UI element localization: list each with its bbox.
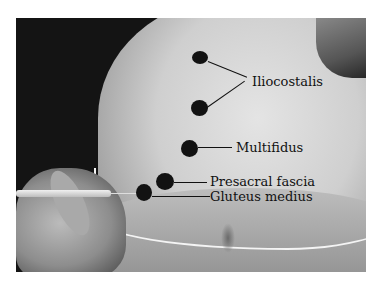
gluteal-cleft xyxy=(221,223,235,253)
leader-line-gluteus-medius xyxy=(152,196,210,197)
marker-presacral-fascia xyxy=(156,173,174,190)
leader-line-presacral-fascia xyxy=(174,182,207,183)
marker-iliocostalis-upper xyxy=(192,51,208,64)
label-multifidus: Multifidus xyxy=(236,141,303,154)
label-gluteus-medius: Gluteus medius xyxy=(210,190,313,203)
marker-multifidus xyxy=(181,140,198,157)
marker-iliocostalis-lower xyxy=(191,100,208,116)
label-presacral-fascia: Presacral fascia xyxy=(210,175,315,188)
label-iliocostalis: Iliocostalis xyxy=(252,75,323,88)
marker-gluteus-medius xyxy=(136,184,152,201)
leader-line-multifidus xyxy=(198,147,232,148)
syringe xyxy=(16,190,111,197)
